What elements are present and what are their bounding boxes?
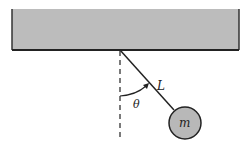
angle-label: θ: [133, 98, 140, 111]
angle-arc: [120, 83, 149, 96]
ceiling: [12, 9, 239, 50]
length-label: L: [156, 79, 165, 93]
mass-label: m: [179, 116, 190, 130]
pendulum-diagram: L θ m: [0, 0, 249, 148]
pendulum-string: [120, 50, 174, 110]
